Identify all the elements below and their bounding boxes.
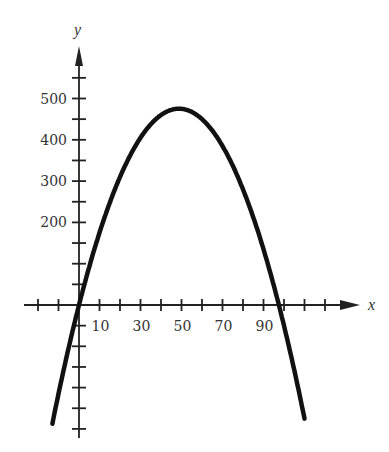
x-tick-label: 10 [92,318,110,334]
y-tick-label: 400 [40,132,67,148]
y-axis-label: y [72,21,82,39]
x-axis [24,299,360,311]
x-tick-label: 70 [215,318,233,334]
x-tick-label: 50 [174,318,192,334]
y-axis-arrow-icon [75,46,83,66]
x-axis-arrow-icon [340,300,360,310]
y-tick-label: 300 [40,173,67,189]
y-tick-label: 200 [40,214,67,230]
chart: 2003004005001030507090 y x [0,0,389,452]
parabola-curve [52,109,304,424]
x-tick-label: 90 [256,318,274,334]
x-axis-label: x [367,296,375,313]
y-axis [72,46,86,438]
y-tick-label: 500 [40,91,67,107]
tick-labels: 2003004005001030507090 [40,91,273,335]
x-tick-label: 30 [133,318,151,334]
